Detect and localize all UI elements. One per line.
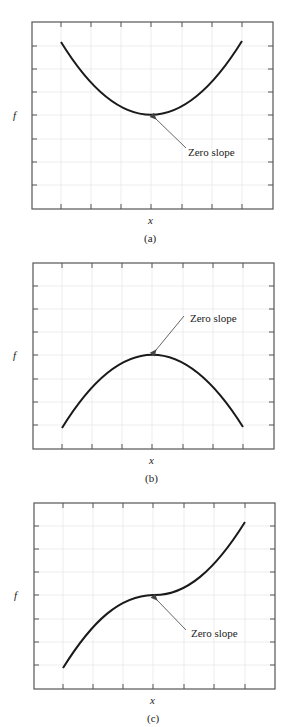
annotation-zero-slope: Zero slope [188, 146, 235, 158]
panel-c: Zero slope f x (c) [14, 503, 275, 725]
ticks [33, 263, 274, 449]
figure: Zero slope f x (a) [0, 0, 287, 727]
curve-maximum [62, 355, 243, 428]
annotation-zero-slope: Zero slope [191, 627, 238, 639]
annotation-zero-slope: Zero slope [190, 312, 237, 324]
x-axis-label: x [149, 694, 155, 706]
x-axis-label: x [147, 214, 153, 226]
annotation-arrow [156, 316, 184, 350]
panel-b: Zero slope f x (b) [13, 263, 274, 485]
panel-a: Zero slope f x (a) [13, 22, 273, 245]
x-axis-label: x [148, 454, 154, 466]
panel-caption: (a) [144, 232, 157, 245]
y-axis-label: f [14, 589, 19, 601]
panel-caption: (c) [147, 712, 160, 725]
panel-caption: (b) [145, 472, 158, 485]
y-axis-label: f [13, 349, 18, 361]
plot-frame [33, 263, 274, 449]
annotation-arrow [156, 119, 186, 148]
y-axis-label: f [13, 109, 18, 121]
curve-minimum [61, 41, 242, 115]
annotation-arrow [157, 600, 186, 630]
grid [33, 263, 274, 449]
